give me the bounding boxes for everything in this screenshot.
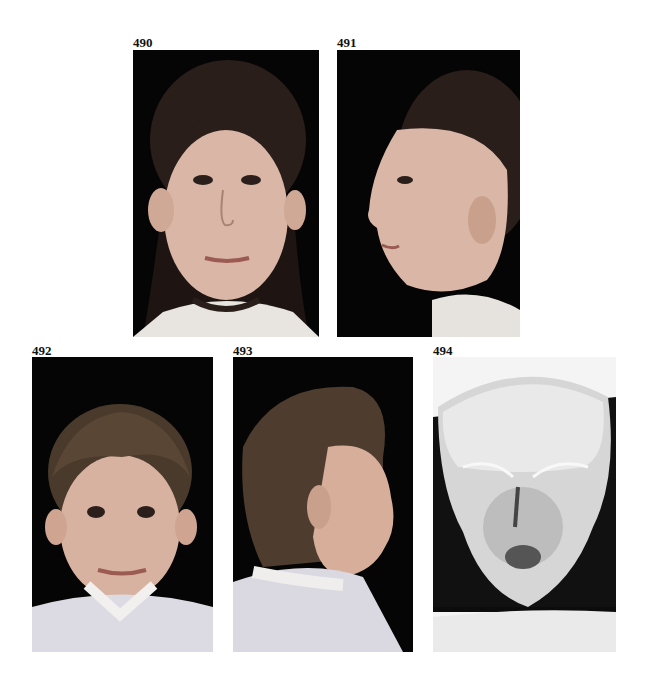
photo-490-frontal-girl [133,50,319,337]
photo-493-profile-boy [233,357,413,652]
photo-492-frontal-boy [32,357,213,652]
radiograph-illustration [433,357,616,652]
portrait-boy-frontal-illustration [32,357,213,652]
portrait-girl-frontal-illustration [133,50,319,337]
figure-label-490: 490 [133,36,153,49]
portrait-boy-profile-illustration [233,357,413,652]
figure-label-492: 492 [32,344,52,357]
portrait-girl-profile-illustration [337,50,520,337]
photo-494-skull-radiograph [433,357,616,652]
figure-label-491: 491 [337,36,357,49]
figure-label-493: 493 [233,344,253,357]
photo-491-profile-girl [337,50,520,337]
figure-label-494: 494 [433,344,453,357]
